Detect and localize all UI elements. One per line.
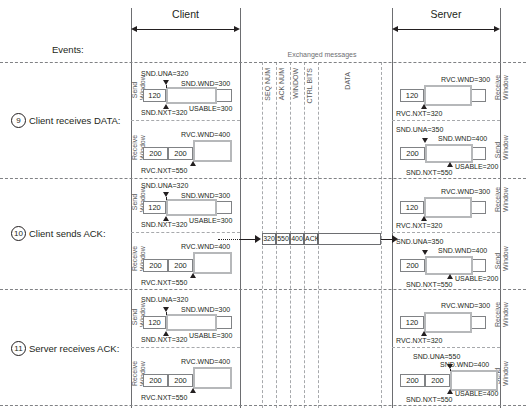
inner-sep-row9 [131, 120, 240, 121]
row10-server-rvc-nxt: RVC.NXT=320 [396, 222, 442, 229]
row11-client-rvc-nxt-pointer [190, 388, 196, 393]
row9-client-send-window [166, 87, 217, 104]
server-span-arrow-line [397, 29, 495, 30]
row10-server-snd-wnd: SND.WND=400 [438, 247, 487, 254]
row9-client-rvc-nxt-pointer [190, 161, 196, 166]
row10-server-recv-label-l2: Window [502, 192, 510, 212]
row11-client-recv-label-l1: Receive [131, 366, 139, 386]
row11-server-send-label-l2: Window [502, 366, 510, 386]
divider-client-right [240, 8, 241, 408]
row11-client-snd-una-stem [166, 312, 167, 315]
row9-server-recv-label-l1: Receive [494, 80, 502, 100]
server-span-arrow-right-head [494, 26, 500, 32]
row11-server-recv-label-l1: Receive [494, 307, 502, 327]
row10-client-rvc-nxt-pointer [190, 273, 196, 278]
row-event-10: Client sends ACK: [29, 228, 106, 239]
row9-server-send-label-l2: Window [502, 140, 510, 160]
row11-server-rvc-nxt-pointer [421, 331, 427, 336]
inner-sep-row10-server [392, 232, 500, 233]
row11-server-recv-window [424, 312, 472, 333]
row10-client-snd-una-stem [166, 197, 167, 200]
row-sep-10-11 [0, 289, 526, 290]
row10-server-rvc-wnd: RVC.WND=300 [441, 188, 490, 195]
row10-server-snd-nxt-pointer [447, 274, 453, 279]
row11-server-send-seg2: 200 [425, 374, 450, 387]
inner-sep-row11-server [392, 347, 500, 348]
row9-server-snd-nxt-pointer [447, 162, 453, 167]
row10-server-snd-una: SND.UNA=350 [396, 238, 443, 245]
msgfield-label-data: DATA [344, 72, 352, 90]
row9-client-recv-window [193, 140, 232, 162]
row11-server-rvc-wnd: RVC.WND=300 [441, 302, 490, 309]
row9-client-recv-label-l1: Receive [131, 140, 139, 160]
row11-server-snd-una-stem [450, 369, 451, 371]
row10-client-usable: USABLE=300 [189, 217, 232, 224]
row10-client-snd-wnd: SND.WND=300 [181, 192, 230, 199]
row11-server-snd-nxt: SND.NXT=550 [406, 396, 453, 403]
row10-client-recv-label-l1: Receive [131, 251, 139, 271]
row11-server-snd-nxt-pointer [447, 389, 453, 394]
msgfield-label-ctrl-bits: CTRL BITS [306, 68, 314, 104]
client-span-arrow-line [136, 29, 235, 30]
row10-server-snd-una-pointer [422, 250, 428, 255]
row9-server-snd-una-pointer [422, 138, 428, 143]
row9-client-rvc-nxt: RVC.NXT=550 [141, 167, 187, 174]
row-number-11: 11 [11, 341, 26, 356]
row9-client-snd-una: SND.UNA=320 [141, 70, 188, 77]
row9-client-send-label-l1: Send [131, 80, 139, 100]
message-field-window: 400 [290, 233, 304, 245]
row9-server-recv-window [424, 85, 472, 106]
row9-server-send-window [425, 144, 473, 163]
row10-server-recv-seg-120: 120 [400, 201, 424, 214]
row9-server-usable: USABLE=200 [455, 163, 498, 170]
row11-client-recv-window [193, 367, 232, 389]
row10-client-recv-seg1: 200 [143, 259, 168, 272]
row10-client-send-label-l1: Send [131, 192, 139, 212]
inner-sep-row11 [131, 347, 240, 348]
row9-client-recv-seg2: 200 [168, 147, 193, 160]
message-arrow-head-right [392, 235, 398, 243]
row11-server-recv-seg-120: 120 [400, 316, 424, 329]
row-sep-bottom [0, 405, 526, 406]
server-span-arrow-left-head [392, 26, 398, 32]
row10-server-snd-nxt: SND.NXT=550 [406, 281, 453, 288]
row9-client-send-seg-120: 120 [143, 89, 166, 102]
row10-client-rvc-wnd: RVC.WND=400 [181, 243, 230, 250]
row10-client-send-window [166, 199, 217, 216]
row11-client-send-label-l1: Send [131, 307, 139, 327]
row-sep-9-10 [0, 178, 526, 179]
row9-server-recv-label-l2: Window [502, 80, 510, 100]
row9-client-rvc-wnd: RVC.WND=400 [181, 131, 230, 138]
row9-server-rvc-wnd: RVC.WND=300 [441, 76, 490, 83]
tcp-window-diagram: Client Server Events: Exchanged messages… [0, 0, 526, 416]
row9-server-snd-nxt: SND.NXT=550 [406, 169, 453, 176]
row11-client-snd-una: SND.UNA=320 [141, 296, 188, 303]
row-sep-top [0, 62, 526, 63]
message-arrow-line-left [240, 239, 256, 240]
row11-client-snd-wnd: SND.WND=300 [181, 306, 230, 313]
row11-client-rvc-wnd: RVC.WND=400 [181, 358, 230, 365]
row9-client-snd-wnd: SND.WND=300 [181, 80, 230, 87]
row9-client-recv-seg1: 200 [143, 147, 168, 160]
row9-client-snd-nxt: SND.NXT=320 [141, 109, 188, 116]
message-field-data [318, 233, 381, 245]
row10-client-send-seg-120: 120 [143, 201, 166, 214]
row11-client-recv-seg1: 200 [143, 374, 168, 387]
client-span-arrow-right-head [234, 26, 240, 32]
divider-server-left [392, 8, 393, 408]
message-field-ack-num: 550 [276, 233, 290, 245]
inner-sep-row9-server [392, 120, 500, 121]
row-number-10: 10 [11, 226, 26, 241]
row11-client-rvc-nxt: RVC.NXT=550 [141, 394, 187, 401]
row10-client-snd-nxt: SND.NXT=320 [141, 221, 188, 228]
row10-server-recv-label-l1: Receive [494, 192, 502, 212]
row10-client-recv-seg2: 200 [168, 259, 193, 272]
row11-server-recv-label-l2: Window [502, 307, 510, 327]
row11-client-send-window [166, 314, 217, 331]
row10-server-send-seg1: 200 [400, 259, 425, 272]
row-number-9: 9 [11, 113, 26, 128]
row11-client-recv-seg2: 200 [168, 374, 193, 387]
column-header-server: Server [392, 8, 500, 20]
row10-client-recv-window [193, 252, 232, 274]
client-span-arrow-left-head [131, 26, 137, 32]
